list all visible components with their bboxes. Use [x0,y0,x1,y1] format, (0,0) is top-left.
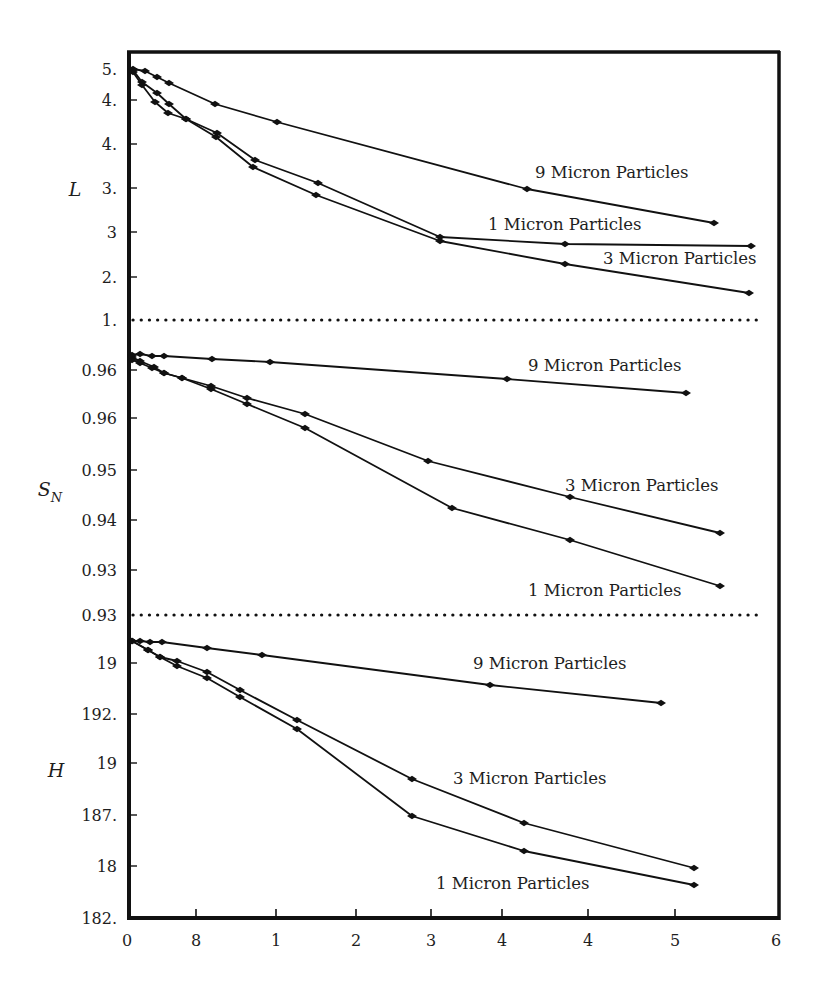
y-tick-label: 3 [107,223,117,242]
y-tick-label: 187. [81,806,117,825]
y-axis-name-h: H [47,759,65,781]
y-tick-label: 3. [102,179,117,198]
diamond-marker-icon [709,220,719,227]
y-axis-name-l: L [68,178,82,200]
diamond-marker-icon [435,238,445,245]
x-tick-label: 1 [271,931,281,950]
y-tick-label: 4. [102,135,117,154]
diamond-marker-icon [135,351,145,358]
y-axis-name-sn: SN [38,478,63,505]
diamond-marker-icon [744,290,754,297]
series-label-sn-1: 3 Micron Particles [565,476,719,495]
y-tick-label: 4. [102,91,117,110]
diamond-marker-icon [522,186,532,193]
diamond-marker-icon [265,359,275,366]
series-label-l-2: 3 Micron Particles [603,249,757,268]
diamond-marker-icon [272,119,282,126]
diamond-marker-icon [715,530,725,537]
stacked-line-chart: 5.4.4.3.32.1.0.960.960.950.940.930.93191… [0,0,819,992]
diamond-marker-icon [689,865,699,872]
series-labels: 9 Micron Particles1 Micron Particles3 Mi… [436,163,757,893]
y-tick-label: 18 [97,857,117,876]
y-tick-label: 0.94 [81,511,117,530]
y-tick-label: 0.96 [81,361,117,380]
x-tick-label: 2 [351,931,361,950]
series-label-h-1: 3 Micron Particles [453,769,607,788]
x-tick-label: 4 [497,931,507,950]
diamond-marker-icon [560,261,570,268]
diamond-marker-icon [157,639,167,646]
diamond-marker-icon [207,356,217,363]
y-axis-name-subscript: N [50,490,63,505]
x-tick-label: 0 [122,931,132,950]
series-label-sn-2: 1 Micron Particles [528,581,682,600]
diamond-marker-icon [485,682,495,689]
diamond-marker-icon [565,537,575,544]
x-tick-label: 5 [670,931,680,950]
y-tick-label: 0.93 [81,561,117,580]
series-label-sn-0: 9 Micron Particles [528,356,682,375]
diamond-marker-icon [715,583,725,590]
series-line-l-0 [133,69,714,223]
diamond-marker-icon [689,882,699,889]
series-label-h-0: 9 Micron Particles [473,654,627,673]
x-tick-label: 6 [771,931,781,950]
diamond-marker-icon [560,241,570,248]
diamond-marker-icon [681,390,691,397]
x-axis-ticks: 081234456 [122,909,781,950]
diamond-marker-icon [202,645,212,652]
diamond-marker-icon [257,652,267,659]
x-tick-label: 4 [583,931,593,950]
diamond-marker-icon [519,848,529,855]
y-axis-names: LSNH [38,178,82,781]
diamond-marker-icon [145,639,155,646]
diamond-marker-icon [300,411,310,418]
series-line-sn-1 [132,357,720,533]
y-tick-label: 5. [102,60,117,79]
y-tick-label: 1. [102,311,117,330]
y-tick-label: 0.93 [81,606,117,625]
diamond-marker-icon [147,353,157,360]
y-tick-label: 192. [81,705,117,724]
diamond-marker-icon [502,376,512,383]
y-tick-label: 0.96 [81,409,117,428]
series-line-sn-2 [132,360,720,586]
diamond-marker-icon [242,395,252,402]
series-label-h-2: 1 Micron Particles [436,874,590,893]
diamond-marker-icon [177,375,187,382]
diamond-marker-icon [656,700,666,707]
y-tick-label: 19 [97,654,117,673]
y-tick-label: 182. [81,909,117,928]
diamond-marker-icon [159,353,169,360]
y-tick-label: 2. [102,268,117,287]
y-tick-label: 19 [97,754,117,773]
series-label-l-0: 9 Micron Particles [535,163,689,182]
y-tick-label: 0.95 [81,461,117,480]
x-tick-label: 3 [426,931,436,950]
series-line-l-1 [133,70,751,246]
diamond-marker-icon [423,458,433,465]
x-tick-label: 8 [191,931,201,950]
series-label-l-1: 1 Micron Particles [488,215,642,234]
